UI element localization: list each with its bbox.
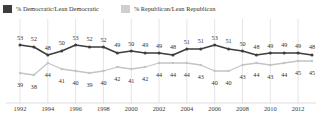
legend-swatch-republican-icon <box>121 5 130 13</box>
x-axis-tick-label: 2010 <box>264 105 277 112</box>
legend-item-democratic: % Democratic/Lean Democratic <box>3 5 99 13</box>
legend-swatch-democratic-icon <box>3 5 12 13</box>
data-point <box>227 48 230 51</box>
data-point <box>255 54 258 57</box>
point-label: 40 <box>100 80 106 86</box>
point-label: 44 <box>253 72 259 78</box>
point-label: 40 <box>212 80 218 86</box>
data-point <box>311 60 313 62</box>
data-point <box>172 62 174 64</box>
point-label: 51 <box>184 39 190 45</box>
series-line-republican <box>20 61 312 75</box>
legend-label-republican: % Republican/Lean Republican <box>134 5 215 12</box>
point-label: 44 <box>45 72 51 78</box>
point-label: 53 <box>212 35 218 41</box>
point-label: 49 <box>267 43 273 49</box>
point-label: 48 <box>170 44 176 50</box>
data-point <box>213 70 215 72</box>
data-point <box>144 52 147 55</box>
x-axis-tick-label: 2012 <box>292 105 305 112</box>
data-point <box>47 62 49 64</box>
point-label: 43 <box>267 74 273 80</box>
point-label: 39 <box>86 82 92 88</box>
point-label: 52 <box>100 37 106 43</box>
point-label: 48 <box>45 45 51 51</box>
point-label: 53 <box>73 35 79 41</box>
data-point <box>311 54 314 57</box>
point-label: 44 <box>281 72 287 78</box>
point-label: 44 <box>170 72 176 78</box>
data-point <box>227 70 229 72</box>
point-label: 38 <box>31 84 37 90</box>
point-label: 41 <box>128 78 134 84</box>
data-point <box>185 48 188 51</box>
data-point <box>74 70 76 72</box>
chart-canvas <box>0 17 322 105</box>
chart-plot-area: 5352485053525249504949485151535150484949… <box>0 17 322 105</box>
point-label: 42 <box>142 76 148 82</box>
data-point <box>269 64 271 66</box>
chart-x-axis: 1992199419961998200020022004200620082010… <box>0 105 322 121</box>
point-label: 53 <box>17 35 23 41</box>
data-point <box>46 54 49 57</box>
point-label: 49 <box>156 43 162 49</box>
point-label: 42 <box>114 76 120 82</box>
data-point <box>241 64 243 66</box>
point-label: 44 <box>184 72 190 78</box>
point-label: 39 <box>17 82 23 88</box>
data-point <box>255 62 257 64</box>
data-point <box>102 70 104 72</box>
point-label: 40 <box>73 80 79 86</box>
chart-legend: % Democratic/Lean Democratic % Republica… <box>0 0 322 17</box>
data-point <box>88 46 91 49</box>
data-point <box>171 54 174 57</box>
data-point <box>116 52 119 55</box>
data-point <box>32 46 35 49</box>
data-point <box>130 68 132 70</box>
data-point <box>241 50 244 53</box>
data-point <box>158 62 160 64</box>
data-point <box>199 48 202 51</box>
data-point <box>297 52 300 55</box>
point-label: 40 <box>226 80 232 86</box>
data-point <box>144 66 146 68</box>
point-label: 50 <box>59 40 65 46</box>
point-label: 45 <box>295 70 301 76</box>
data-point <box>213 44 216 47</box>
point-label: 50 <box>239 41 245 47</box>
point-label: 48 <box>253 44 259 50</box>
legend-item-republican: % Republican/Lean Republican <box>121 5 215 13</box>
x-axis-tick-label: 2006 <box>208 105 221 112</box>
data-point <box>158 52 161 55</box>
chart-root: % Democratic/Lean Democratic % Republica… <box>0 0 322 130</box>
data-point <box>130 50 133 53</box>
point-label: 52 <box>31 36 37 42</box>
data-point <box>116 66 118 68</box>
data-point <box>102 46 105 49</box>
data-point <box>200 64 202 66</box>
x-axis-tick-label: 1996 <box>69 105 82 112</box>
x-axis-tick-label: 1992 <box>14 105 27 112</box>
point-label: 43 <box>239 74 245 80</box>
point-label: 45 <box>309 70 315 76</box>
legend-label-democratic: % Democratic/Lean Democratic <box>16 5 99 12</box>
data-point <box>74 44 77 47</box>
data-point <box>283 62 285 64</box>
data-point <box>297 60 299 62</box>
data-point <box>283 52 286 55</box>
point-label: 41 <box>59 78 65 84</box>
data-point <box>19 72 21 74</box>
data-point <box>88 72 90 74</box>
point-label: 50 <box>128 41 134 47</box>
point-label: 52 <box>86 36 92 42</box>
data-point <box>61 68 63 70</box>
x-axis-tick-label: 2000 <box>125 105 138 112</box>
x-axis-tick-label: 2004 <box>180 105 193 112</box>
data-point <box>33 74 35 76</box>
point-label: 49 <box>281 42 287 48</box>
point-label: 49 <box>114 42 120 48</box>
x-axis-tick-label: 2008 <box>236 105 249 112</box>
x-axis-tick-label: 1998 <box>97 105 110 112</box>
point-label: 44 <box>156 72 162 78</box>
point-label: 43 <box>198 74 204 80</box>
